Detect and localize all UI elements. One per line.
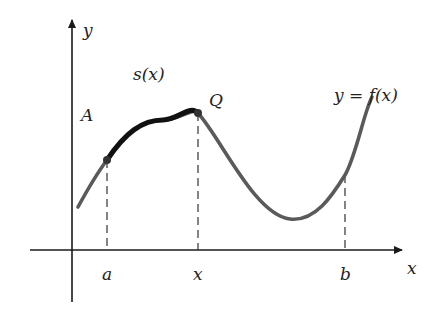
arc-length-segment bbox=[107, 110, 198, 160]
point-q bbox=[194, 109, 202, 117]
point-q-label: Q bbox=[209, 90, 223, 110]
tick-label-x: x bbox=[193, 264, 203, 284]
function-curve bbox=[78, 97, 372, 219]
y-axis-label: y bbox=[82, 20, 93, 40]
arc-label: s(x) bbox=[133, 64, 165, 84]
x-axis-label: x bbox=[407, 258, 417, 278]
point-a-label: A bbox=[79, 105, 93, 125]
point-a bbox=[103, 156, 111, 164]
tick-label-b: b bbox=[340, 264, 351, 284]
curve-label: y = f(x) bbox=[333, 85, 398, 105]
tick-label-a: a bbox=[102, 264, 112, 284]
arc-length-figure: y x s(x) A Q y = f(x) a x b bbox=[0, 0, 443, 316]
